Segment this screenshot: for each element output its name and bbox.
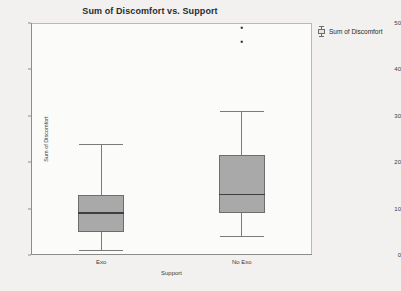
y-tick-mark [28, 208, 31, 209]
y-tick-label: 10 [375, 206, 401, 212]
lower-whisker-cap [79, 250, 123, 251]
lower-whisker [101, 232, 102, 251]
box-iqr [219, 155, 265, 213]
plot-area: Sum of Discomfort [31, 23, 312, 255]
y-tick-label: 40 [375, 66, 401, 72]
y-tick-mark [28, 69, 31, 70]
legend-item-label: Sum of Discomfort [329, 28, 382, 35]
x-tick-label: No Exo [232, 259, 252, 265]
x-axis-line [31, 254, 312, 255]
upper-whisker [241, 111, 242, 155]
y-tick-mark [28, 162, 31, 163]
y-tick-label: 30 [375, 113, 401, 119]
x-tick-label: Exo [96, 259, 106, 265]
legend: Sum of Discomfort [318, 26, 382, 37]
y-axis-line [31, 23, 32, 255]
y-axis-label: Sum of Discomfort [43, 104, 49, 174]
boxplot-glyph-icon [318, 26, 325, 37]
upper-whisker-cap [79, 144, 123, 145]
upper-whisker [101, 144, 102, 195]
outlier-point [241, 26, 244, 29]
median-line [219, 194, 265, 196]
y-tick-mark [28, 23, 31, 24]
chart-title: Sum of Discomfort vs. Support [0, 6, 300, 16]
y-tick-label: 0 [375, 252, 401, 258]
x-axis-label: Support [31, 270, 312, 276]
y-tick-mark [28, 255, 31, 256]
lower-whisker-cap [220, 236, 264, 237]
y-tick-mark [28, 115, 31, 116]
lower-whisker [241, 213, 242, 236]
chart-canvas: Sum of Discomfort vs. Support Sum of Dis… [0, 0, 401, 291]
outlier-point [241, 40, 244, 43]
y-tick-label: 20 [375, 159, 401, 165]
median-line [78, 212, 124, 214]
upper-whisker-cap [220, 111, 264, 112]
